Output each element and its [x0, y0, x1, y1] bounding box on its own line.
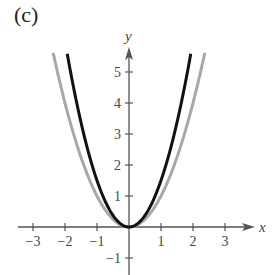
- parabola-chart: xy−3−2−1123−112345: [0, 0, 273, 275]
- x-tick-label: 2: [190, 234, 197, 249]
- x-axis-label: x: [258, 219, 266, 235]
- y-tick-label: 5: [114, 65, 121, 80]
- y-tick-label: 2: [114, 158, 121, 173]
- y-tick-label: 4: [114, 96, 121, 111]
- x-tick-label: 1: [158, 234, 165, 249]
- x-tick-label: −2: [58, 234, 73, 249]
- x-tick-label: 3: [222, 234, 229, 249]
- x-tick-label: −3: [26, 234, 41, 249]
- y-tick-label: 3: [114, 127, 121, 142]
- y-tick-label: −1: [106, 251, 121, 266]
- x-tick-label: −1: [90, 234, 105, 249]
- y-tick-label: 1: [114, 189, 121, 204]
- y-axis-label: y: [123, 28, 132, 44]
